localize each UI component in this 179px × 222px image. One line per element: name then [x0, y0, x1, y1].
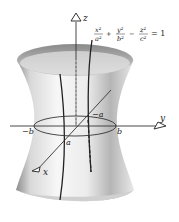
- label-pos-b: b: [117, 127, 122, 136]
- eq-sign-2: +: [106, 30, 111, 38]
- z-axis-arrow-icon: [71, 13, 81, 21]
- equation: x² a² + y² b² − z² c² = 1: [94, 26, 165, 43]
- label-neg-a: −a: [92, 110, 104, 119]
- label-pos-a: a: [66, 138, 71, 147]
- z-axis-label: z: [82, 13, 88, 23]
- x-axis-label: x: [43, 167, 48, 177]
- y-axis-arrow-icon: [154, 122, 166, 129]
- y-axis-label: y: [159, 113, 166, 123]
- eq-sign-3: −: [129, 30, 134, 38]
- label-neg-b: −b: [22, 127, 34, 136]
- eq-term3-num: z²: [139, 26, 146, 34]
- eq-term2-num: y²: [116, 26, 124, 34]
- eq-rhs: = 1: [151, 29, 165, 38]
- eq-term1-num: x²: [95, 26, 102, 34]
- hyperboloid-diagram: z y x −b b a −a x² a² + y² b² − z² c² = …: [0, 0, 179, 222]
- eq-term2-den: b²: [117, 35, 124, 43]
- top-rim-inner: [20, 51, 130, 75]
- eq-term3-den: c²: [140, 35, 147, 43]
- eq-term1-den: a²: [95, 35, 102, 43]
